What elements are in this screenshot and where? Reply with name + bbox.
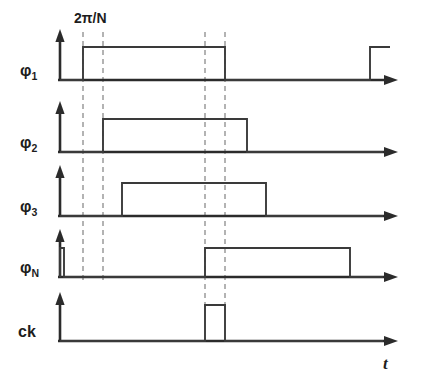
y-axis-arrow-phi3 (55, 165, 64, 178)
x-axis-arrow-phi2 (384, 147, 398, 157)
y-axis-arrow-phi1 (55, 29, 64, 42)
waveform-phi1 (60, 47, 390, 80)
period-annotation-group: 2π/N (74, 10, 107, 26)
waveform-row-phi2: φ2 (20, 101, 398, 157)
row-label-phiN-base: φ (20, 259, 31, 276)
waveform-row-phiN: φN (20, 229, 398, 282)
waveform-row-phi3: φ3 (20, 165, 398, 221)
waveform-phi3 (60, 183, 383, 216)
row-label-phi3-sub: 3 (31, 206, 37, 218)
y-axis-arrow-phiN (55, 229, 64, 242)
row-label-phi3-base: φ (20, 198, 31, 215)
row-label-phiN-sub: N (31, 267, 39, 279)
row-label-phi2-base: φ (20, 134, 31, 151)
row-label-ck-base: ck (18, 323, 36, 340)
x-axis-arrow-phi1 (384, 75, 398, 85)
row-label-phi2-sub: 2 (31, 142, 37, 154)
row-label-ck: ck (18, 323, 36, 340)
timing-diagram-figure: 2π/N φ1 φ2 φ3 (0, 0, 422, 381)
x-axis-arrow-phi3 (384, 211, 398, 221)
row-label-phiN: φN (20, 259, 39, 279)
time-axis-label: t (383, 354, 389, 373)
row-label-phi1: φ1 (20, 62, 37, 82)
row-label-phi3: φ3 (20, 198, 37, 218)
waveform-row-phi1: φ1 (20, 29, 398, 85)
waveform-phi2 (60, 119, 383, 152)
y-axis-arrow-phi2 (55, 101, 64, 114)
guide-lines-group (83, 32, 225, 307)
waveform-phiN (60, 248, 383, 277)
row-label-phi1-sub: 1 (31, 70, 37, 82)
waveform-ck (60, 305, 383, 341)
timing-diagram-canvas: 2π/N φ1 φ2 φ3 (0, 0, 422, 381)
row-label-phi1-base: φ (20, 62, 31, 79)
period-annotation-label: 2π/N (74, 10, 107, 26)
waveform-row-ck: ck t (18, 292, 398, 373)
row-label-phi2: φ2 (20, 134, 37, 154)
x-axis-arrow-phiN (384, 272, 398, 282)
y-axis-arrow-ck (55, 292, 64, 305)
x-axis-arrow-ck (384, 336, 398, 346)
